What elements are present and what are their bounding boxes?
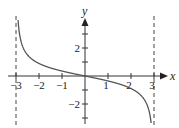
x-tick-label: 3 (149, 79, 155, 91)
x-axis-label: x (169, 69, 176, 83)
x-tick-label: −3 (10, 79, 22, 91)
y-tick-label: 2 (75, 42, 81, 54)
x-tick-label: −2 (33, 79, 45, 91)
y-axis-label: y (81, 4, 88, 18)
x-axis-arrow-icon (160, 73, 168, 80)
x-tick-label: −1 (56, 79, 68, 91)
y-tick-label: −2 (68, 98, 80, 110)
y-axis-arrow-icon (82, 18, 89, 26)
function-plot: x y −3 −2 −1 1 2 3 2 −2 (0, 0, 179, 128)
